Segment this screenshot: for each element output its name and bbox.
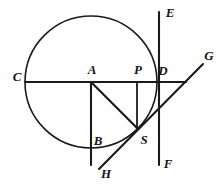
point-label-g: G	[204, 49, 213, 62]
diagonal-line-a-to-s	[91, 82, 137, 128]
point-label-h: H	[101, 167, 111, 180]
point-label-a: A	[88, 63, 97, 76]
point-label-s: S	[140, 133, 147, 146]
point-label-d: D	[158, 64, 167, 77]
point-label-c: C	[13, 70, 22, 83]
point-label-e: E	[166, 6, 175, 19]
geometry-canvas	[0, 0, 224, 185]
geometry-figure: C A P D E F G H S B	[0, 0, 224, 185]
point-label-f: F	[164, 157, 173, 170]
secant-line-h-to-g	[99, 64, 203, 169]
point-label-p: P	[134, 63, 142, 76]
point-label-b: B	[94, 134, 103, 147]
